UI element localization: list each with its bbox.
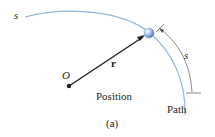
arc-length-arrowhead [159,28,164,33]
position-vector-label: r [111,58,116,69]
path-caption: Path [167,104,187,115]
particle-icon [144,28,154,38]
arc-length-label: s [184,50,188,61]
origin-label: O [62,70,70,81]
position-caption: Position [96,91,132,102]
path-start-s-label: s [14,10,18,21]
origin-point-icon [67,84,71,88]
figure-label: (a) [106,118,118,129]
position-vector-line [69,37,143,86]
